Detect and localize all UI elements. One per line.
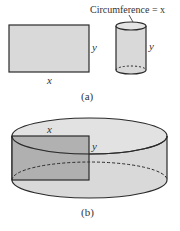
cylinder-height-label: y xyxy=(148,40,154,52)
part-b-cylinder xyxy=(12,118,167,198)
circumference-pointer xyxy=(129,15,133,22)
rect-a-height-label: y xyxy=(91,41,97,53)
diagram-canvas: x y Circumference = x y (a) x y (b) xyxy=(0,0,180,231)
rect-b-height-label: y xyxy=(91,140,97,152)
rect-a-width-label: x xyxy=(46,74,52,86)
caption-a: (a) xyxy=(81,90,94,103)
cylinder-top-ellipse xyxy=(116,22,146,30)
part-a-rectangle xyxy=(9,25,89,72)
rect-b-width-label: x xyxy=(46,123,52,135)
wrapped-rectangle xyxy=(12,136,89,180)
caption-b: (b) xyxy=(81,206,94,219)
circumference-annotation: Circumference = x xyxy=(90,4,165,15)
part-a-cylinder xyxy=(116,15,146,74)
flat-rectangle xyxy=(9,25,89,72)
